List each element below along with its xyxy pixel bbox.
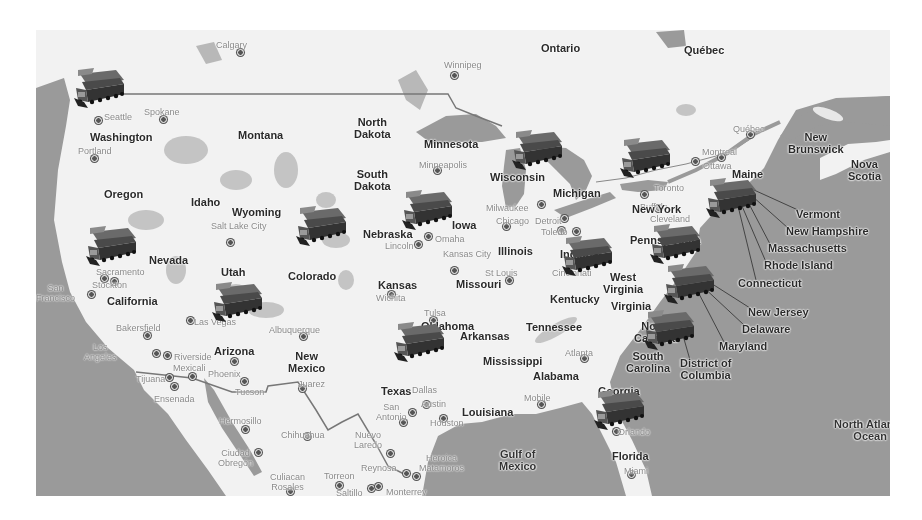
- city-label-miami: Miami: [624, 466, 648, 476]
- city-marker-ensenada-icon[interactable]: [171, 383, 178, 390]
- region-label-tennessee: Tennessee: [526, 321, 582, 333]
- city-label-wichita: Wichita: [376, 293, 406, 303]
- city-label-heroica-matamoros: HeroicaMatamoros: [419, 453, 464, 473]
- city-label-milwaukee: Milwaukee: [486, 203, 529, 213]
- city-label-mexicali: Mexicali: [173, 363, 206, 373]
- city-marker-saltillo-icon[interactable]: [368, 485, 375, 492]
- city-label-ottawa: Ottawa: [703, 161, 732, 171]
- city-marker-salt-lake-city-icon[interactable]: [227, 239, 234, 246]
- city-marker-st-louis-icon[interactable]: [506, 277, 513, 284]
- city-marker-detroit-icon[interactable]: [561, 215, 568, 222]
- truck-marker-north-carolina-icon[interactable]: [642, 310, 696, 354]
- region-label-florida: Florida: [612, 450, 649, 462]
- city-marker-ottawa-icon[interactable]: [692, 158, 699, 165]
- region-label-colorado: Colorado: [288, 270, 336, 282]
- city-label-portland: Portland: [78, 146, 112, 156]
- truck-marker-oklahoma-icon[interactable]: [392, 322, 446, 366]
- city-marker-winnipeg-icon[interactable]: [451, 72, 458, 79]
- city-marker-las-vegas-icon[interactable]: [187, 317, 194, 324]
- city-marker-san-francisco-icon[interactable]: [88, 291, 95, 298]
- us-map[interactable]: CalgaryWinnipegSpokaneSeattlePortlandQué…: [36, 30, 890, 496]
- city-marker-riverside-icon[interactable]: [164, 352, 171, 359]
- city-label-reynosa: Reynosa: [361, 463, 397, 473]
- city-marker-milwaukee-icon[interactable]: [538, 201, 545, 208]
- city-marker-nuevo-laredo-icon[interactable]: [387, 450, 394, 457]
- city-label-kansas-city: Kansas City: [443, 249, 491, 259]
- city-label-detroit: Detroit: [535, 216, 562, 226]
- region-label-gulf-of-mexico: Gulf ofMexico: [499, 448, 536, 472]
- city-marker-calgary-icon[interactable]: [237, 49, 244, 56]
- city-marker-hermosillo-icon[interactable]: [242, 426, 249, 433]
- city-label-toronto: Toronto: [654, 183, 684, 193]
- city-label-culiacan-rosales: CuliacanRosales: [270, 472, 305, 492]
- region-label-new-brunswick: NewBrunswick: [788, 131, 844, 155]
- truck-marker-wyoming-icon[interactable]: [294, 206, 348, 250]
- city-marker-spokane-icon[interactable]: [160, 116, 167, 123]
- region-label-texas: Texas: [381, 385, 411, 397]
- truck-marker-new-york-icon[interactable]: [704, 178, 758, 222]
- city-marker-heroica-matamoros-icon[interactable]: [413, 473, 420, 480]
- city-label-chicago: Chicago: [496, 216, 529, 226]
- truck-marker-georgia-icon[interactable]: [592, 390, 646, 434]
- truck-marker-seattle-icon[interactable]: [72, 68, 126, 112]
- city-marker-portland-icon[interactable]: [91, 155, 98, 162]
- truck-marker-sacramento-icon[interactable]: [84, 226, 138, 270]
- city-marker-mexicali-icon[interactable]: [189, 373, 196, 380]
- city-label-tucson: Tucson: [235, 387, 264, 397]
- region-label-nova-scotia: NovaScotia: [848, 158, 881, 182]
- truck-marker-ontario-icon[interactable]: [618, 138, 672, 182]
- city-marker-ciudad-obreg-n-icon[interactable]: [255, 449, 262, 456]
- region-label-louisiana: Louisiana: [462, 406, 513, 418]
- city-marker-reynosa-icon[interactable]: [403, 470, 410, 477]
- region-label-nevada: Nevada: [149, 254, 188, 266]
- region-label-idaho: Idaho: [191, 196, 220, 208]
- city-label-cleveland: Cleveland: [650, 214, 690, 224]
- city-label-ensenada: Ensenada: [154, 394, 195, 404]
- city-marker-bakersfield-icon[interactable]: [144, 332, 151, 339]
- truck-marker-nebraska-icon[interactable]: [400, 190, 454, 234]
- region-label-kansas: Kansas: [378, 279, 417, 291]
- truck-marker-utah-icon[interactable]: [210, 282, 264, 326]
- region-label-minnesota: Minnesota: [424, 138, 478, 150]
- city-label-phoenix: Phoenix: [208, 369, 241, 379]
- region-label-wyoming: Wyoming: [232, 206, 281, 218]
- city-label-montreal: Montreal: [702, 147, 737, 157]
- truck-marker-pennsylvania-icon[interactable]: [648, 224, 702, 268]
- region-label-oregon: Oregon: [104, 188, 143, 200]
- city-marker-kansas-city-icon[interactable]: [451, 267, 458, 274]
- region-label-new-york: New York: [632, 203, 681, 215]
- city-label-chihuahua: Chihuahua: [281, 430, 325, 440]
- region-label-utah: Utah: [221, 266, 245, 278]
- city-label-austin: Austin: [421, 399, 446, 409]
- city-marker-phoenix-icon[interactable]: [231, 358, 238, 365]
- city-label-albuquerque: Albuquerque: [269, 325, 320, 335]
- truck-marker-wisconsin-icon[interactable]: [510, 130, 564, 174]
- city-marker-los-angeles-icon[interactable]: [153, 350, 160, 357]
- city-label-tijuana: Tijuana: [136, 374, 165, 384]
- callout-label-new-jersey: New Jersey: [748, 306, 809, 318]
- city-marker-toronto-icon[interactable]: [641, 191, 648, 198]
- region-label-new-mexico: NewMexico: [288, 350, 325, 374]
- region-label-illinois: Illinois: [498, 245, 533, 257]
- city-label-tulsa: Tulsa: [424, 308, 446, 318]
- city-marker-lincoln-icon[interactable]: [415, 241, 422, 248]
- city-marker-tucson-icon[interactable]: [241, 378, 248, 385]
- city-marker-seattle-icon[interactable]: [95, 117, 102, 124]
- callout-label-massachusetts: Massachusetts: [768, 242, 847, 254]
- callout-label-connecticut: Connecticut: [738, 277, 802, 289]
- city-marker-monterrey-icon[interactable]: [375, 483, 382, 490]
- city-marker-tijuana-icon[interactable]: [166, 374, 173, 381]
- city-label-atlanta: Atlanta: [565, 348, 593, 358]
- city-marker-austin-icon[interactable]: [409, 409, 416, 416]
- region-label-michigan: Michigan: [553, 187, 601, 199]
- city-marker-cleveland-icon[interactable]: [573, 228, 580, 235]
- callout-label-new-hampshire: New Hampshire: [786, 225, 869, 237]
- city-label-winnipeg: Winnipeg: [444, 60, 482, 70]
- city-label-ciudad-obreg-n: CiudadObregón: [218, 448, 253, 468]
- city-label-san-antonio: SanAntonio: [376, 402, 407, 422]
- callout-label-delaware: Delaware: [742, 323, 790, 335]
- city-marker-omaha-icon[interactable]: [425, 233, 432, 240]
- truck-marker-virginia-icon[interactable]: [662, 264, 716, 308]
- truck-marker-indiana-icon[interactable]: [560, 236, 614, 280]
- city-label-saltillo: Saltillo: [336, 488, 363, 496]
